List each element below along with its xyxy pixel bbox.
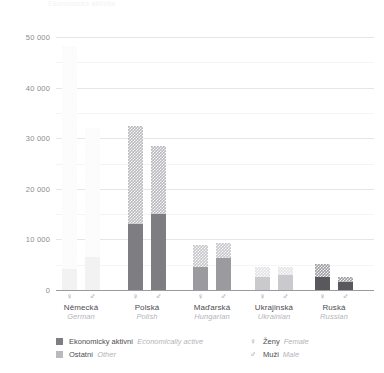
bar-ukrajinská-female: [255, 267, 270, 290]
x-group-label-en: Hungarian: [194, 312, 230, 321]
x-group-label-en: Russian: [320, 312, 348, 321]
gender-symbol-female: ♀: [260, 292, 266, 301]
gender-symbol-female: ♀: [320, 292, 326, 301]
bar-segment-active: [85, 257, 100, 290]
gridline: [56, 62, 374, 63]
gender-symbol-male: ♂: [343, 292, 349, 301]
gender-symbol-female: ♀: [133, 292, 139, 301]
gridline: [56, 239, 374, 240]
bar-segment-active: [216, 258, 231, 290]
bar-segment-active: [62, 269, 77, 290]
gridline: [56, 189, 374, 190]
x-group-label: NěmeckáGerman: [64, 303, 99, 321]
y-tick-label: 50 000: [26, 33, 50, 42]
legend-label-cs: Ženy: [263, 337, 280, 346]
bar-ruská-female: [315, 264, 330, 290]
x-group-label-cs: Polská: [135, 303, 160, 312]
y-tick-label: 20 000: [26, 184, 50, 193]
bar-segment-other: [193, 245, 208, 267]
bar-segment-active: [278, 275, 293, 290]
bar-segment-active: [128, 224, 143, 290]
bar-polská-male: [151, 146, 166, 290]
gender-symbol-female: ♀: [198, 292, 204, 301]
gridline: [56, 37, 374, 38]
gridline: [56, 88, 374, 89]
bar-segment-active: [255, 277, 270, 290]
bar-segment-other: [216, 243, 231, 258]
gender-symbol-female: ♀: [67, 292, 73, 301]
y-axis: 50 00040 00030 00020 00010 0000: [0, 0, 56, 373]
bar-segment-other: [128, 126, 143, 224]
bar-segment-other: [278, 267, 293, 275]
gender-symbol-male: ♂: [90, 292, 96, 301]
gridline: [56, 138, 374, 139]
x-group-label: MaďarskáHungarian: [194, 303, 230, 321]
plot-area: [56, 37, 374, 290]
x-axis: ♀♂NěmeckáGerman♀♂PolskáPolish♀♂MaďarskáH…: [56, 290, 374, 330]
bar-segment-active: [151, 214, 166, 290]
x-group-label-cs: Ruská: [320, 303, 348, 312]
legend-gender: ♀ŽenyFemale♂MužiMale: [250, 336, 309, 362]
x-group-label-en: Polish: [135, 312, 160, 321]
gender-symbol-male: ♂: [283, 292, 289, 301]
gridline: [56, 214, 374, 215]
bar-maďarská-female: [193, 245, 208, 290]
bar-ukrajinská-male: [278, 267, 293, 290]
gender-symbol-male: ♂: [156, 292, 162, 301]
gridline: [56, 113, 374, 114]
bar-segment-active: [338, 282, 353, 290]
bar-segment-other: [62, 46, 77, 269]
gender-symbol-male: ♂: [221, 292, 227, 301]
legend-label-en: Female: [284, 337, 309, 346]
gender-symbol-icon: ♀: [250, 337, 263, 346]
bar-německá-male: [85, 128, 100, 290]
bar-segment-active: [193, 267, 208, 290]
legend-item[interactable]: OstatníOther: [56, 349, 203, 360]
bar-segment-other: [85, 128, 100, 257]
bar-segment-other: [315, 264, 330, 277]
x-group-label: RuskáRussian: [320, 303, 348, 321]
x-group-label-cs: Německá: [64, 303, 99, 312]
bar-segment-other: [255, 267, 270, 277]
x-group-label-en: Ukrainian: [255, 312, 293, 321]
legend-label-cs: Muži: [263, 350, 279, 359]
bar-segment-active: [315, 277, 330, 290]
bar-německá-female: [62, 46, 77, 290]
x-group-label: PolskáPolish: [135, 303, 160, 321]
legend-label-en: Economically active: [137, 337, 203, 346]
x-group-label-en: German: [64, 312, 99, 321]
x-group-label: UkrajinskáUkrainian: [255, 303, 293, 321]
legend-swatch-icon: [56, 351, 63, 358]
gridline: [56, 164, 374, 165]
legend-item[interactable]: ♂MužiMale: [250, 349, 309, 360]
legend-stack: Ekonomicky aktivníEconomically activeOst…: [56, 336, 203, 362]
x-group-label-cs: Maďarská: [194, 303, 230, 312]
legend-label-en: Male: [283, 350, 299, 359]
bar-segment-other: [151, 146, 166, 214]
bar-maďarská-male: [216, 243, 231, 290]
chart-container: Ekonomická aktivita 50 00040 00030 00020…: [0, 0, 384, 373]
y-tick-label: 30 000: [26, 134, 50, 143]
y-tick-label: 40 000: [26, 83, 50, 92]
gender-symbol-icon: ♂: [250, 350, 263, 359]
bar-polská-female: [128, 126, 143, 290]
legend-swatch-icon: [56, 338, 63, 345]
y-tick-label: 0: [46, 286, 50, 295]
legend-label-cs: Ekonomicky aktivní: [69, 337, 133, 346]
legend-item[interactable]: Ekonomicky aktivníEconomically active: [56, 336, 203, 347]
page-title: Ekonomická aktivita: [48, 0, 116, 7]
legend-item[interactable]: ♀ŽenyFemale: [250, 336, 309, 347]
x-group-label-cs: Ukrajinská: [255, 303, 293, 312]
y-tick-label: 10 000: [26, 235, 50, 244]
legend-label-cs: Ostatní: [69, 350, 93, 359]
legend-label-en: Other: [97, 350, 116, 359]
bar-ruská-male: [338, 277, 353, 290]
